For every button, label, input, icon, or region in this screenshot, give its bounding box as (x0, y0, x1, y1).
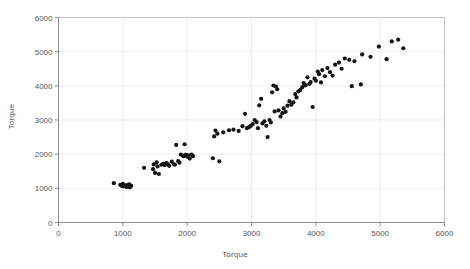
data-point (256, 126, 260, 130)
data-point (359, 82, 363, 86)
data-point (215, 132, 219, 136)
x-tick-labels: 0100020003000400050006000 (56, 229, 454, 238)
y-tick-label: 3000 (35, 116, 53, 125)
data-point (167, 164, 171, 168)
x-axis-title: Torque (0, 250, 470, 259)
y-tick-labels: 0100020003000400050006000 (35, 14, 53, 228)
data-point (259, 97, 263, 101)
data-point (265, 135, 269, 139)
gridlines (59, 18, 445, 223)
x-tick-label: 2000 (178, 229, 196, 238)
data-point (368, 55, 372, 59)
data-point (231, 127, 235, 131)
data-point (283, 110, 287, 114)
data-point (309, 80, 313, 84)
data-point (323, 74, 327, 78)
data-point (303, 83, 307, 87)
data-point (269, 120, 273, 124)
y-tick-label: 2000 (35, 150, 53, 159)
data-point (177, 161, 181, 165)
data-point (337, 61, 341, 65)
data-point (151, 167, 155, 171)
x-tick-label: 4000 (307, 229, 325, 238)
x-tick-label: 5000 (371, 229, 389, 238)
data-point (129, 184, 133, 188)
data-point (157, 172, 161, 176)
data-point (270, 90, 274, 94)
data-point (285, 104, 289, 108)
data-point (221, 130, 225, 134)
data-point (343, 56, 347, 60)
y-tick-label: 5000 (35, 48, 53, 57)
data-point (182, 142, 186, 146)
data-point (390, 39, 394, 43)
data-point (401, 46, 405, 50)
scatter-plot-figure: 0100020003000400050006000 01000200030004… (0, 0, 470, 269)
data-point (142, 166, 146, 170)
tick-marks (55, 18, 445, 227)
x-tick-label: 6000 (436, 229, 454, 238)
data-point (212, 134, 216, 138)
data-point (174, 143, 178, 147)
data-point (319, 80, 323, 84)
data-point (294, 95, 298, 99)
plot-canvas: 0100020003000400050006000 01000200030004… (0, 0, 470, 269)
data-point (311, 105, 315, 109)
y-tick-label: 0 (48, 219, 53, 228)
data-point (347, 58, 351, 62)
y-tick-label: 4000 (35, 82, 53, 91)
data-point (360, 52, 364, 56)
data-point (264, 124, 268, 128)
data-point (350, 84, 354, 88)
data-point (333, 63, 337, 67)
data-point (251, 122, 255, 126)
data-point (217, 159, 221, 163)
data-point (155, 164, 159, 168)
data-points (112, 38, 406, 190)
y-tick-label: 6000 (35, 14, 53, 23)
data-point (328, 70, 332, 74)
data-point (257, 103, 261, 107)
data-point (155, 160, 159, 164)
data-point (240, 124, 244, 128)
y-axis-title: Torque (7, 97, 16, 137)
data-point (314, 79, 318, 83)
data-point (275, 87, 279, 91)
data-point (153, 171, 157, 175)
data-point (243, 112, 247, 116)
data-point (330, 73, 334, 77)
data-point (227, 128, 231, 132)
data-point (276, 108, 280, 112)
data-point (317, 72, 321, 76)
data-point (320, 68, 324, 72)
data-point (273, 109, 277, 113)
y-tick-label: 1000 (35, 184, 53, 193)
data-point (173, 163, 177, 167)
x-tick-label: 1000 (114, 229, 132, 238)
data-point (112, 181, 116, 185)
data-point (291, 100, 295, 104)
data-point (237, 129, 241, 133)
data-point (211, 156, 215, 160)
data-point (339, 67, 343, 71)
data-point (255, 120, 259, 124)
data-point (191, 154, 195, 158)
data-point (262, 119, 266, 123)
data-point (325, 66, 329, 70)
data-point (396, 38, 400, 42)
x-tick-label: 3000 (243, 229, 261, 238)
x-tick-label: 0 (56, 229, 61, 238)
data-point (377, 44, 381, 48)
data-point (305, 75, 309, 79)
data-point (352, 59, 356, 63)
data-point (385, 57, 389, 61)
